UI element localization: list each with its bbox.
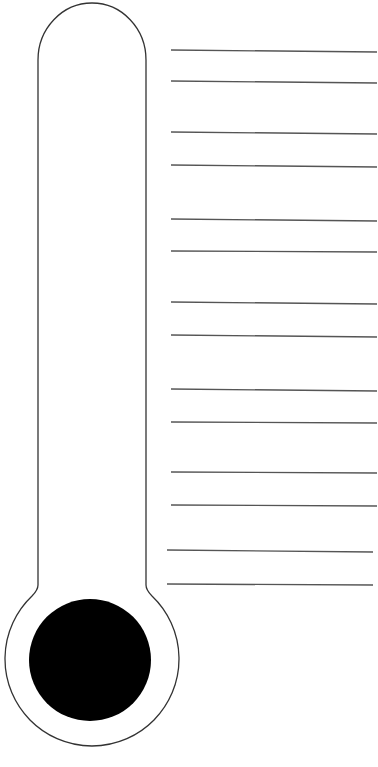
thermometer-bulb-fill [29, 599, 151, 721]
rule-line [171, 335, 377, 337]
rule-line [171, 81, 377, 83]
rule-line [171, 389, 377, 391]
rule-line [171, 505, 377, 506]
rule-line [171, 132, 377, 134]
rule-line [171, 472, 377, 473]
rule-lines [167, 50, 377, 585]
rule-line [171, 219, 377, 221]
rule-line [171, 422, 377, 423]
rule-line [171, 251, 377, 252]
rule-line [171, 165, 377, 167]
rule-line [167, 584, 373, 585]
rule-line [171, 50, 377, 52]
rule-line [171, 302, 377, 304]
thermometer-worksheet [0, 0, 378, 767]
rule-line [167, 550, 373, 552]
